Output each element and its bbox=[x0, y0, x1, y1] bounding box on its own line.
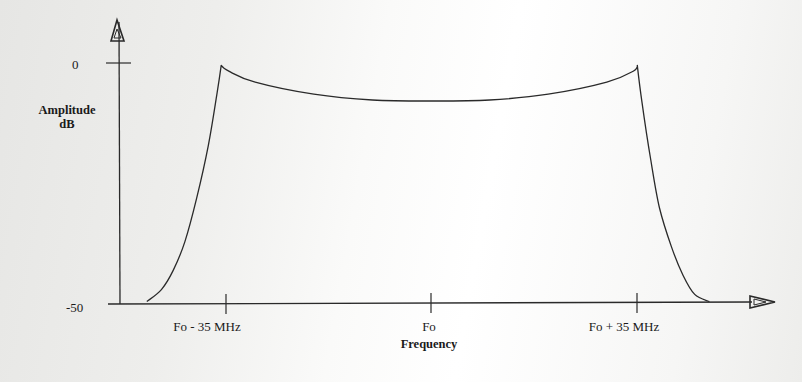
x-axis-title: Frequency bbox=[401, 337, 458, 351]
x-tick-label-right: Fo + 35 MHz bbox=[589, 319, 660, 335]
x-tick-label-left: Fo - 35 MHz bbox=[173, 319, 241, 335]
y-axis-title-line1: Amplitude bbox=[34, 103, 100, 117]
y-tick-label-0: 0 bbox=[72, 57, 79, 73]
y-axis-arrow-icon bbox=[111, 20, 124, 41]
spectrum-curve bbox=[147, 65, 710, 301]
y-axis-title-line2: dB bbox=[34, 117, 100, 131]
y-axis bbox=[119, 22, 120, 304]
y-axis-title: Amplitude dB bbox=[34, 103, 100, 131]
x-axis-arrow-icon bbox=[750, 296, 775, 308]
x-axis bbox=[108, 302, 752, 304]
x-tick-label-center: Fo bbox=[422, 319, 436, 335]
chart-canvas bbox=[0, 0, 802, 382]
y-tick-label-neg50: -50 bbox=[66, 300, 83, 316]
